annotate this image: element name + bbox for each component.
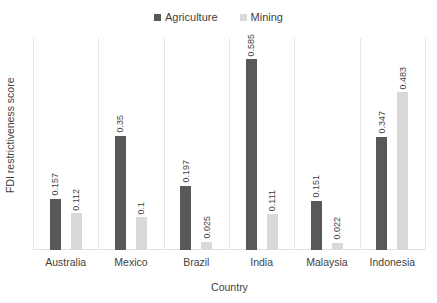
bar-rect[interactable] xyxy=(311,201,322,250)
bar-group: 0.1970.025 xyxy=(164,38,229,250)
bar-agriculture-india[interactable]: 0.585 xyxy=(246,38,257,250)
bar-group: 0.1510.022 xyxy=(294,38,359,250)
bar-agriculture-brazil[interactable]: 0.197 xyxy=(180,38,191,250)
bar-value-label: 0.197 xyxy=(181,160,190,183)
bar-rect[interactable] xyxy=(332,243,343,250)
bar-value-label: 0.022 xyxy=(333,217,342,240)
bar-rect[interactable] xyxy=(376,137,387,250)
bar-agriculture-malaysia[interactable]: 0.151 xyxy=(311,38,322,250)
bar-agriculture-australia[interactable]: 0.157 xyxy=(50,38,61,250)
x-axis-tick-labels: AustraliaMexicoBrazilIndiaMalaysiaIndone… xyxy=(33,256,425,268)
x-axis-tick-label: Indonesia xyxy=(360,256,425,268)
bar-mining-india[interactable]: 0.111 xyxy=(267,38,278,250)
bar-value-label: 0.35 xyxy=(116,115,125,133)
bar-agriculture-indonesia[interactable]: 0.347 xyxy=(376,38,387,250)
bar-value-label: 0.1 xyxy=(137,202,146,215)
legend-label-agriculture: Agriculture xyxy=(165,12,218,23)
plot-area: 0.1570.1120.350.10.1970.0250.5850.1110.1… xyxy=(33,38,425,250)
bar-value-label: 0.151 xyxy=(312,175,321,198)
bar-value-label: 0.157 xyxy=(51,173,60,196)
bar-value-label: 0.347 xyxy=(377,111,386,134)
chart-legend: Agriculture Mining xyxy=(0,12,437,23)
bar-mining-mexico[interactable]: 0.1 xyxy=(136,38,147,250)
category-gridline xyxy=(425,38,426,250)
legend-item-mining: Mining xyxy=(240,12,283,23)
bar-value-label: 0.483 xyxy=(398,67,407,90)
legend-label-mining: Mining xyxy=(251,12,283,23)
bar-group: 0.350.1 xyxy=(98,38,163,250)
bar-rect[interactable] xyxy=(115,136,126,250)
x-axis-tick-label: Australia xyxy=(33,256,98,268)
bar-mining-malaysia[interactable]: 0.022 xyxy=(332,38,343,250)
legend-item-agriculture: Agriculture xyxy=(154,12,218,23)
bar-mining-australia[interactable]: 0.112 xyxy=(71,38,82,250)
x-axis-title: Country xyxy=(33,281,426,293)
bar-mining-indonesia[interactable]: 0.483 xyxy=(397,38,408,250)
bar-value-label: 0.025 xyxy=(202,216,211,239)
bar-agriculture-mexico[interactable]: 0.35 xyxy=(115,38,126,250)
bar-value-label: 0.585 xyxy=(247,34,256,57)
legend-swatch-agriculture xyxy=(154,14,161,21)
bar-rect[interactable] xyxy=(201,242,212,250)
y-axis-title: FDI restrictiveness score xyxy=(2,70,18,200)
bar-rect[interactable] xyxy=(397,92,408,250)
bar-rect[interactable] xyxy=(180,186,191,250)
bar-group: 0.3470.483 xyxy=(360,38,425,250)
bar-value-label: 0.112 xyxy=(72,189,81,211)
x-axis-tick-label: Mexico xyxy=(98,256,163,268)
bar-rect[interactable] xyxy=(71,213,82,250)
bar-rect[interactable] xyxy=(50,199,61,250)
x-axis-tick-label: India xyxy=(229,256,294,268)
bar-group: 0.5850.111 xyxy=(229,38,294,250)
fdi-restrictiveness-bar-chart: Agriculture Mining FDI restrictiveness s… xyxy=(0,0,437,303)
bar-rect[interactable] xyxy=(267,214,278,250)
x-axis-tick-label: Malaysia xyxy=(294,256,359,268)
legend-swatch-mining xyxy=(240,14,247,21)
bar-rect[interactable] xyxy=(136,217,147,250)
bar-groups: 0.1570.1120.350.10.1970.0250.5850.1110.1… xyxy=(33,38,425,250)
bar-rect[interactable] xyxy=(246,59,257,250)
x-axis-tick-label: Brazil xyxy=(164,256,229,268)
bar-group: 0.1570.112 xyxy=(33,38,98,250)
bar-value-label: 0.111 xyxy=(268,190,277,211)
bar-mining-brazil[interactable]: 0.025 xyxy=(201,38,212,250)
